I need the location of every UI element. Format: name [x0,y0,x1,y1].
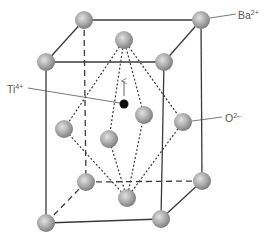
o-ion [55,120,73,138]
ba-label: Ba2+ [238,9,259,21]
ba-ion [77,173,95,191]
ba-ion [75,11,93,29]
ba-ion [193,172,211,190]
o-ion [118,189,136,207]
ba-ion [37,53,55,71]
ti-label: Ti4+ [7,83,23,95]
ba-ion [192,11,210,29]
o-ion [115,31,133,49]
o-ion [174,113,192,131]
o-ion [135,106,153,124]
label-leader-lines [28,14,236,121]
ba-ion [37,214,55,232]
ba-ion [155,53,173,71]
o-label: O2– [225,112,241,124]
o-ion [100,130,118,148]
ba-ion [152,210,170,228]
ti-ion [120,100,129,109]
